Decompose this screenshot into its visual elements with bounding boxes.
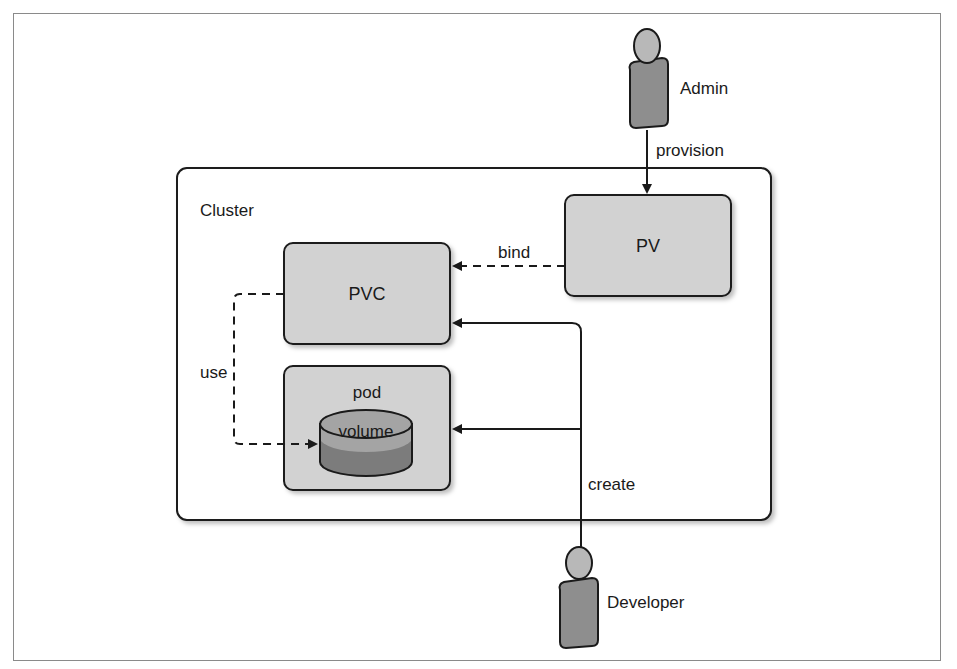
create-label: create [588,475,635,494]
cluster-label: Cluster [200,201,254,220]
bind-label: bind [498,243,530,262]
diagram-canvas: Cluster Admin provision PV PVC bind pod … [0,0,957,669]
developer-person-icon [560,547,599,648]
pv-label: PV [636,236,660,256]
admin-person-icon [630,29,669,128]
pvc-label: PVC [348,284,385,304]
pvc-node: PVC [284,243,450,344]
pv-node: PV [565,195,731,296]
admin-label: Admin [680,79,728,98]
pod-label: pod [353,383,381,402]
volume-label: volume [339,422,394,441]
use-label: use [200,363,227,382]
developer-label: Developer [607,593,685,612]
provision-label: provision [656,141,724,160]
volume-cylinder-icon: volume [320,410,412,476]
